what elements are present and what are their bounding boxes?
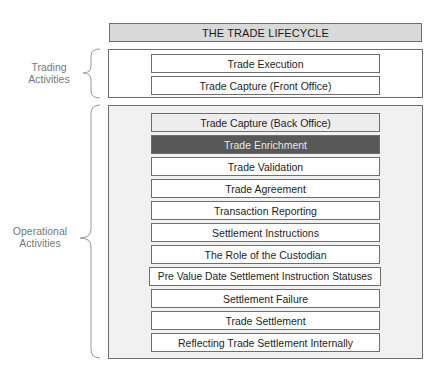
step-trade-capture-front-office: Trade Capture (Front Office) xyxy=(151,76,380,95)
diagram-title: THE TRADE LIFECYCLE xyxy=(109,23,422,42)
step-trade-validation: Trade Validation xyxy=(151,157,380,176)
group-braces xyxy=(0,0,110,376)
trading-brace-icon xyxy=(83,49,100,98)
step-settlement-failure: Settlement Failure xyxy=(151,289,380,308)
step-trade-enrichment: Trade Enrichment xyxy=(151,135,380,154)
step-pre-value-date-statuses: Pre Value Date Settlement Instruction St… xyxy=(149,267,381,286)
step-role-of-custodian: The Role of the Custodian xyxy=(151,245,380,264)
step-trade-execution: Trade Execution xyxy=(151,54,380,73)
step-settlement-instructions: Settlement Instructions xyxy=(151,223,380,242)
step-trade-capture-back-office: Trade Capture (Back Office) xyxy=(151,113,380,132)
step-trade-settlement: Trade Settlement xyxy=(151,311,380,330)
label-line: Trading xyxy=(14,61,84,73)
label-line: Operational xyxy=(2,225,78,237)
operational-activities-label: Operational Activities xyxy=(2,225,78,249)
trading-activities-label: Trading Activities xyxy=(14,61,84,85)
label-line: Activities xyxy=(2,237,78,249)
step-trade-agreement: Trade Agreement xyxy=(151,179,380,198)
operational-brace-icon xyxy=(80,105,100,358)
step-transaction-reporting: Transaction Reporting xyxy=(151,201,380,220)
label-line: Activities xyxy=(14,73,84,85)
step-reflecting-settlement-internally: Reflecting Trade Settlement Internally xyxy=(151,333,380,352)
